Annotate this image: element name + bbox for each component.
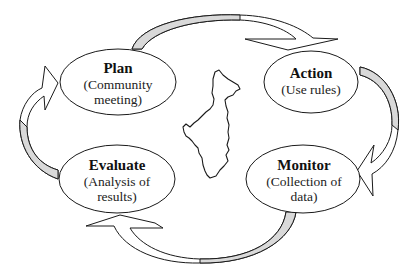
node-evaluate-title: Evaluate <box>89 157 146 174</box>
node-evaluate: Evaluate (Analysis of results) <box>61 151 173 209</box>
node-evaluate-subtitle-line-1: (Analysis of <box>84 174 150 189</box>
node-plan-subtitle-line-1: (Community <box>83 77 152 92</box>
arrow-plan-to-action <box>132 15 338 50</box>
node-monitor-subtitle-line-2: data) <box>291 189 318 204</box>
arrow-action-to-monitor <box>357 67 399 196</box>
cycle-diagram: Plan (Community meeting) Action (Use rul… <box>0 0 417 276</box>
node-action-title: Action <box>290 65 333 82</box>
arrow-evaluate-to-plan <box>20 66 58 179</box>
diagram-canvas <box>0 0 417 276</box>
node-action: Action (Use rules) <box>264 58 358 104</box>
region-map-outline-icon <box>183 70 240 178</box>
node-monitor-subtitle-line-1: (Collection of <box>266 174 341 189</box>
node-monitor-title: Monitor <box>277 157 330 174</box>
node-plan-subtitle-line-2: meeting) <box>94 92 142 107</box>
arrow-monitor-to-evaluate <box>86 212 296 263</box>
node-plan-title: Plan <box>103 60 132 77</box>
node-plan: Plan (Community meeting) <box>62 54 174 112</box>
node-monitor: Monitor (Collection of data) <box>248 151 360 209</box>
node-action-subtitle-line-1: (Use rules) <box>281 82 341 97</box>
node-evaluate-subtitle-line-2: results) <box>97 189 137 204</box>
